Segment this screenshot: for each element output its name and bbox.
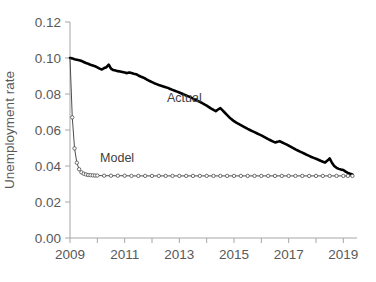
y-axis-title: Unemployment rate — [2, 71, 17, 189]
series-marker-model — [109, 174, 112, 177]
series-marker-model — [294, 174, 297, 177]
series-marker-model — [157, 174, 160, 177]
x-axis-tick-label: 2015 — [219, 247, 249, 262]
series-marker-model — [178, 174, 181, 177]
series-marker-model — [342, 174, 345, 177]
series-marker-model — [150, 174, 153, 177]
series-marker-model — [273, 174, 276, 177]
series-marker-model — [314, 174, 317, 177]
series-marker-model — [266, 174, 269, 177]
unemployment-rate-chart: 0.000.020.040.060.080.100.12200920112013… — [0, 0, 376, 282]
series-marker-model — [116, 174, 119, 177]
series-marker-model — [346, 174, 349, 177]
y-axis-tick-label: 0.00 — [35, 231, 61, 246]
series-marker-model — [260, 174, 263, 177]
series-marker-model — [205, 174, 208, 177]
y-axis-tick-label: 0.06 — [35, 123, 61, 138]
series-marker-model — [77, 168, 80, 171]
series-marker-model — [130, 174, 133, 177]
series-marker-model — [198, 174, 201, 177]
series-marker-model — [301, 174, 304, 177]
series-marker-model — [143, 174, 146, 177]
series-marker-model — [351, 174, 354, 177]
series-marker-model — [96, 174, 99, 177]
y-axis-tick-label: 0.02 — [35, 195, 61, 210]
y-axis-tick-label: 0.12 — [35, 15, 61, 30]
x-axis-tick-label: 2013 — [164, 247, 194, 262]
chart-canvas: 0.000.020.040.060.080.100.12200920112013… — [0, 0, 376, 282]
series-marker-model — [307, 174, 310, 177]
series-marker-model — [280, 174, 283, 177]
series-marker-model — [75, 161, 78, 164]
series-marker-model — [191, 174, 194, 177]
series-marker-model — [123, 174, 126, 177]
series-marker-model — [246, 174, 249, 177]
y-axis-tick-label: 0.04 — [35, 159, 62, 174]
series-marker-model — [225, 174, 228, 177]
series-marker-model — [328, 174, 331, 177]
series-marker-model — [184, 174, 187, 177]
series-marker-model — [212, 174, 215, 177]
x-axis-tick-label: 2017 — [274, 247, 304, 262]
series-marker-model — [335, 174, 338, 177]
y-axis-tick-label: 0.08 — [35, 87, 61, 102]
series-label-model: Model — [100, 151, 134, 165]
series-marker-model — [321, 174, 324, 177]
series-marker-model — [287, 174, 290, 177]
series-marker-model — [73, 147, 76, 150]
x-axis-tick-label: 2019 — [328, 247, 358, 262]
series-marker-model — [137, 174, 140, 177]
series-marker-model — [239, 174, 242, 177]
series-marker-model — [171, 174, 174, 177]
series-marker-model — [102, 174, 105, 177]
series-marker-model — [164, 174, 167, 177]
series-marker-model — [71, 116, 74, 119]
y-axis-tick-label: 0.10 — [35, 51, 61, 66]
series-marker-model — [232, 174, 235, 177]
series-label-actual: Actual — [167, 91, 202, 105]
series-marker-model — [219, 174, 222, 177]
x-axis-tick-label: 2009 — [55, 247, 85, 262]
x-axis-tick-label: 2011 — [110, 247, 139, 262]
series-marker-model — [253, 174, 256, 177]
